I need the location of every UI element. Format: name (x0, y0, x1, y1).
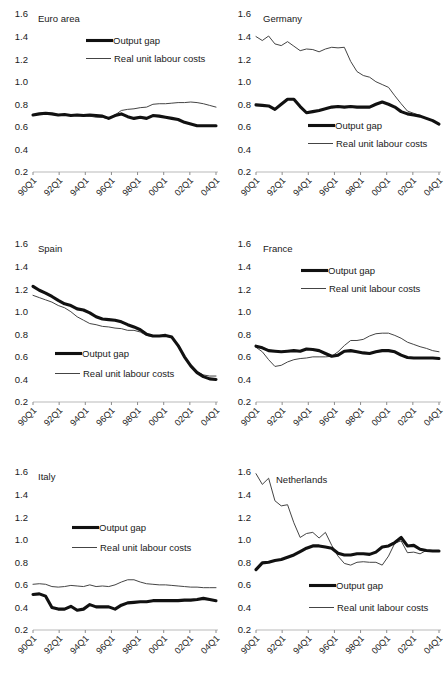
legend-label-output-gap: Output gap (336, 580, 383, 591)
y-axis-tick-label: 1.6 (15, 8, 28, 19)
y-axis-tick-label: 0.6 (15, 121, 28, 132)
series-real-unit-labour-costs (256, 36, 439, 124)
y-axis-tick-label: 1.2 (238, 284, 251, 295)
x-axis-tick-label: 04Q1 (199, 633, 222, 656)
y-axis-tick-label: 1.6 (15, 466, 28, 477)
x-axis-tick-label: 02Q1 (173, 175, 196, 198)
legend-label-real-unit-labour-costs: Real unit labour costs (336, 138, 428, 149)
x-axis-tick-label: 90Q1 (16, 633, 39, 656)
y-axis-tick-label: 1.2 (15, 54, 28, 65)
panel-germany: 0.20.40.60.81.01.21.41.690Q192Q194Q196Q1… (223, 0, 447, 230)
legend-label-output-gap: Output gap (328, 265, 375, 276)
x-axis-tick-label: 94Q1 (68, 405, 91, 428)
x-axis-tick-label: 02Q1 (396, 633, 419, 656)
x-axis-tick-label: 00Q1 (146, 633, 169, 656)
x-axis-tick-label: 00Q1 (369, 405, 392, 428)
y-axis-tick-label: 1.4 (15, 489, 28, 500)
y-axis-tick-label: 1.0 (15, 306, 28, 317)
panel-title: Germany (263, 13, 302, 24)
chart-germany: 0.20.40.60.81.01.21.41.690Q192Q194Q196Q1… (223, 0, 446, 230)
chart-italy: 0.20.40.60.81.01.21.41.690Q192Q194Q196Q1… (0, 458, 223, 687)
y-axis-tick-label: 1.0 (238, 306, 251, 317)
y-axis-tick-label: 0.2 (238, 396, 251, 407)
x-axis-tick-label: 00Q1 (369, 175, 392, 198)
x-axis-tick-label: 92Q1 (42, 405, 65, 428)
x-axis-tick-label: 96Q1 (317, 405, 340, 428)
y-axis-tick-label: 1.4 (238, 489, 251, 500)
x-axis-tick-label: 98Q1 (120, 405, 143, 428)
x-axis-tick-label: 94Q1 (68, 633, 91, 656)
x-axis-tick-label: 98Q1 (120, 633, 143, 656)
y-axis-tick-label: 0.6 (238, 121, 251, 132)
y-axis-tick-label: 1.6 (15, 238, 28, 249)
legend-label-real-unit-labour-costs: Real unit labour costs (337, 602, 429, 613)
y-axis-tick-label: 0.4 (238, 144, 251, 155)
x-axis-tick-label: 94Q1 (291, 633, 314, 656)
y-axis-tick-label: 1.4 (15, 31, 28, 42)
x-axis-tick-label: 96Q1 (94, 175, 117, 198)
series-output-gap (33, 113, 216, 125)
y-axis-tick-label: 0.2 (15, 396, 28, 407)
y-axis-tick-label: 1.6 (238, 466, 251, 477)
x-axis-tick-label: 90Q1 (239, 175, 262, 198)
y-axis-tick-label: 0.4 (15, 602, 28, 613)
y-axis-tick-label: 1.2 (15, 284, 28, 295)
x-axis-tick-label: 02Q1 (396, 405, 419, 428)
legend-label-real-unit-labour-costs: Real unit labour costs (329, 283, 421, 294)
panel-italy: 0.20.40.60.81.01.21.41.690Q192Q194Q196Q1… (0, 458, 223, 687)
y-axis-tick-label: 0.2 (15, 166, 28, 177)
y-axis-tick-label: 0.2 (15, 624, 28, 635)
legend-label-real-unit-labour-costs: Real unit labour costs (114, 53, 206, 64)
x-axis-tick-label: 94Q1 (291, 405, 314, 428)
y-axis-tick-label: 0.8 (15, 557, 28, 568)
x-axis-tick-label: 04Q1 (422, 633, 445, 656)
y-axis-tick-label: 1.2 (238, 512, 251, 523)
x-axis-tick-label: 04Q1 (199, 175, 222, 198)
legend-label-output-gap: Output gap (82, 348, 129, 359)
x-axis-tick-label: 92Q1 (265, 633, 288, 656)
y-axis-tick-label: 1.4 (15, 261, 28, 272)
y-axis-tick-label: 1.2 (15, 512, 28, 523)
y-axis-tick-label: 1.0 (15, 76, 28, 87)
y-axis-tick-label: 1.6 (238, 238, 251, 249)
panel-title: Italy (38, 471, 56, 482)
x-axis-tick-label: 90Q1 (16, 405, 39, 428)
series-output-gap (33, 594, 216, 610)
legend-label-output-gap: Output gap (113, 35, 160, 46)
y-axis-tick-label: 0.4 (15, 374, 28, 385)
x-axis-tick-label: 00Q1 (369, 633, 392, 656)
series-real-unit-labour-costs (33, 580, 216, 588)
x-axis-tick-label: 92Q1 (42, 175, 65, 198)
panel-title: Netherlands (276, 474, 327, 485)
x-axis-tick-label: 00Q1 (146, 175, 169, 198)
y-axis-tick-label: 1.2 (238, 54, 251, 65)
y-axis-tick-label: 0.6 (15, 579, 28, 590)
panel-title: France (263, 243, 293, 254)
series-real-unit-labour-costs (256, 474, 439, 565)
panel-spain: 0.20.40.60.81.01.21.41.690Q192Q194Q196Q1… (0, 230, 223, 458)
y-axis-tick-label: 1.6 (238, 8, 251, 19)
y-axis-tick-label: 0.8 (15, 329, 28, 340)
y-axis-tick-label: 0.6 (238, 351, 251, 362)
y-axis-tick-label: 0.2 (238, 166, 251, 177)
y-axis-tick-label: 1.0 (15, 534, 28, 545)
series-output-gap (256, 537, 439, 569)
x-axis-tick-label: 94Q1 (68, 175, 91, 198)
y-axis-tick-label: 0.4 (15, 144, 28, 155)
chart-euro-area: 0.20.40.60.81.01.21.41.690Q192Q194Q196Q1… (0, 0, 223, 230)
x-axis-tick-label: 96Q1 (94, 633, 117, 656)
chart-grid: 0.20.40.60.81.01.21.41.690Q192Q194Q196Q1… (0, 0, 447, 687)
x-axis-tick-label: 98Q1 (343, 175, 366, 198)
x-axis-tick-label: 04Q1 (199, 405, 222, 428)
x-axis-tick-label: 04Q1 (422, 405, 445, 428)
y-axis-tick-label: 1.4 (238, 31, 251, 42)
x-axis-tick-label: 92Q1 (265, 405, 288, 428)
x-axis-tick-label: 90Q1 (16, 175, 39, 198)
panel-netherlands: 0.20.40.60.81.01.21.41.690Q192Q194Q196Q1… (223, 458, 447, 687)
chart-spain: 0.20.40.60.81.01.21.41.690Q192Q194Q196Q1… (0, 230, 223, 460)
y-axis-tick-label: 0.8 (238, 557, 251, 568)
panel-euro-area: 0.20.40.60.81.01.21.41.690Q192Q194Q196Q1… (0, 0, 223, 230)
panel-title: Euro area (38, 13, 80, 24)
y-axis-tick-label: 1.4 (238, 261, 251, 272)
x-axis-tick-label: 96Q1 (317, 175, 340, 198)
